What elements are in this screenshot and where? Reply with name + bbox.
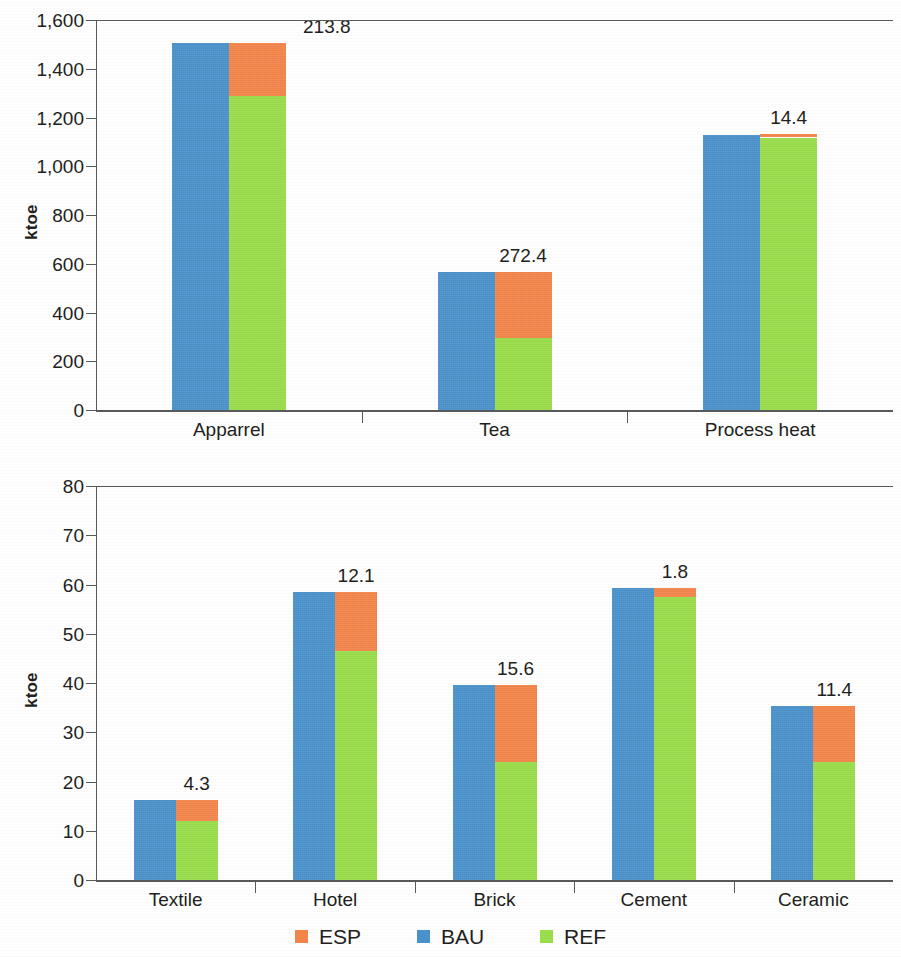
bar-texture	[172, 43, 229, 410]
bar-value-label: 1.8	[640, 562, 710, 581]
bar-value-label: 4.3	[162, 774, 232, 793]
top-chart-plot-area: 213.8272.414.4	[96, 20, 893, 410]
bar-texture	[813, 706, 855, 762]
chart-page: ktoe 02004006008001,0001,2001,4001,600 2…	[0, 0, 901, 957]
chart-legend: ESPBAUREF	[0, 916, 901, 957]
bar-segment-ref	[176, 821, 218, 880]
y-axis-tick-label: 400	[52, 304, 84, 323]
y-axis-tick-label: 70	[63, 526, 84, 545]
y-axis-tick-label: 1,600	[36, 11, 84, 30]
x-axis-category-label: Hotel	[255, 890, 414, 909]
bar-segment-esp	[229, 43, 286, 95]
legend-item-esp[interactable]: ESP	[295, 926, 361, 947]
bar-bau[interactable]	[172, 43, 229, 410]
bar-segment-bau	[703, 135, 760, 410]
y-axis-tick-mark	[86, 831, 96, 832]
bar-texture	[134, 800, 176, 880]
bar-segment-esp	[335, 592, 377, 652]
y-axis-tick-label: 50	[63, 625, 84, 644]
bar-ref-esp-stack[interactable]	[229, 43, 286, 410]
bar-texture	[760, 134, 817, 138]
bar-texture	[438, 272, 495, 410]
bar-texture	[293, 592, 335, 880]
bar-segment-bau	[771, 706, 813, 880]
bar-segment-ref	[654, 597, 696, 880]
y-axis-tick-mark	[86, 585, 96, 586]
bar-value-label: 14.4	[754, 108, 824, 127]
bar-value-label: 12.1	[321, 566, 391, 585]
bar-ref-esp-stack[interactable]	[760, 134, 817, 410]
y-axis-tick-mark	[86, 313, 96, 314]
bar-segment-esp	[495, 685, 537, 762]
legend-label: REF	[564, 926, 606, 947]
y-axis-tick-mark	[86, 20, 96, 21]
bar-texture	[453, 685, 495, 880]
bar-ref-esp-stack[interactable]	[335, 592, 377, 880]
bar-ref-esp-stack[interactable]	[495, 685, 537, 880]
y-axis-tick-mark	[86, 215, 96, 216]
x-axis-category-label: Ceramic	[734, 890, 893, 909]
bar-texture	[760, 138, 817, 411]
y-axis-tick-label: 40	[63, 674, 84, 693]
top-chart-y-axis-label: ktoe	[22, 204, 42, 240]
y-axis-tick-label: 10	[63, 822, 84, 841]
bar-segment-esp	[654, 588, 696, 597]
y-axis-tick-label: 20	[63, 773, 84, 792]
bar-segment-bau	[438, 272, 495, 410]
legend-item-bau[interactable]: BAU	[417, 926, 484, 947]
bar-bau[interactable]	[453, 685, 495, 880]
bar-ref-esp-stack[interactable]	[654, 588, 696, 880]
y-axis-tick-label: 200	[52, 352, 84, 371]
bar-segment-ref	[229, 96, 286, 410]
legend-label: ESP	[319, 926, 361, 947]
x-axis-category-label: Apparrel	[96, 420, 362, 439]
bar-bau[interactable]	[438, 272, 495, 410]
bar-texture	[495, 685, 537, 762]
y-axis-tick-label: 60	[63, 576, 84, 595]
bottom-chart-y-axis-label: ktoe	[22, 672, 42, 708]
bar-texture	[229, 96, 286, 410]
y-axis-tick-mark	[86, 782, 96, 783]
legend-item-ref[interactable]: REF	[540, 926, 606, 947]
bar-bau[interactable]	[134, 800, 176, 880]
bar-bau[interactable]	[612, 588, 654, 880]
y-axis-tick-label: 800	[52, 206, 84, 225]
bar-segment-bau	[612, 588, 654, 880]
y-axis-tick-mark	[86, 535, 96, 536]
bottom-chart-panel: ktoe 01020304050607080 4.312.115.61.811.…	[0, 460, 901, 910]
bar-ref-esp-stack[interactable]	[813, 706, 855, 880]
y-axis-tick-mark	[86, 880, 96, 881]
bar-texture	[335, 651, 377, 880]
bar-texture	[176, 800, 218, 821]
legend-swatch-ref-icon	[540, 930, 553, 943]
y-axis-tick-label: 0	[73, 401, 84, 420]
bar-segment-bau	[172, 43, 229, 410]
bar-bau[interactable]	[771, 706, 813, 880]
bottom-chart-top-rule	[96, 486, 893, 487]
bar-texture	[495, 762, 537, 880]
bar-texture	[813, 762, 855, 880]
y-axis-tick-mark	[86, 361, 96, 362]
y-axis-tick-mark	[86, 732, 96, 733]
bar-ref-esp-stack[interactable]	[495, 272, 552, 410]
bar-segment-bau	[134, 800, 176, 880]
bar-texture	[703, 135, 760, 410]
bar-segment-bau	[293, 592, 335, 880]
bar-ref-esp-stack[interactable]	[176, 800, 218, 880]
bar-bau[interactable]	[703, 135, 760, 410]
bar-segment-ref	[813, 762, 855, 880]
bar-texture	[176, 821, 218, 880]
x-axis-category-label: Brick	[415, 890, 574, 909]
bar-value-label: 11.4	[799, 680, 869, 699]
bar-segment-bau	[453, 685, 495, 880]
y-axis-tick-label: 1,400	[36, 60, 84, 79]
bar-segment-ref	[495, 338, 552, 410]
y-axis-tick-label: 80	[63, 477, 84, 496]
bar-value-label: 15.6	[481, 659, 551, 678]
bar-texture	[335, 592, 377, 652]
y-axis-tick-mark	[86, 118, 96, 119]
y-axis-tick-label: 1,000	[36, 157, 84, 176]
x-axis-category-label: Process heat	[627, 420, 893, 439]
bar-texture	[495, 338, 552, 410]
bar-bau[interactable]	[293, 592, 335, 880]
